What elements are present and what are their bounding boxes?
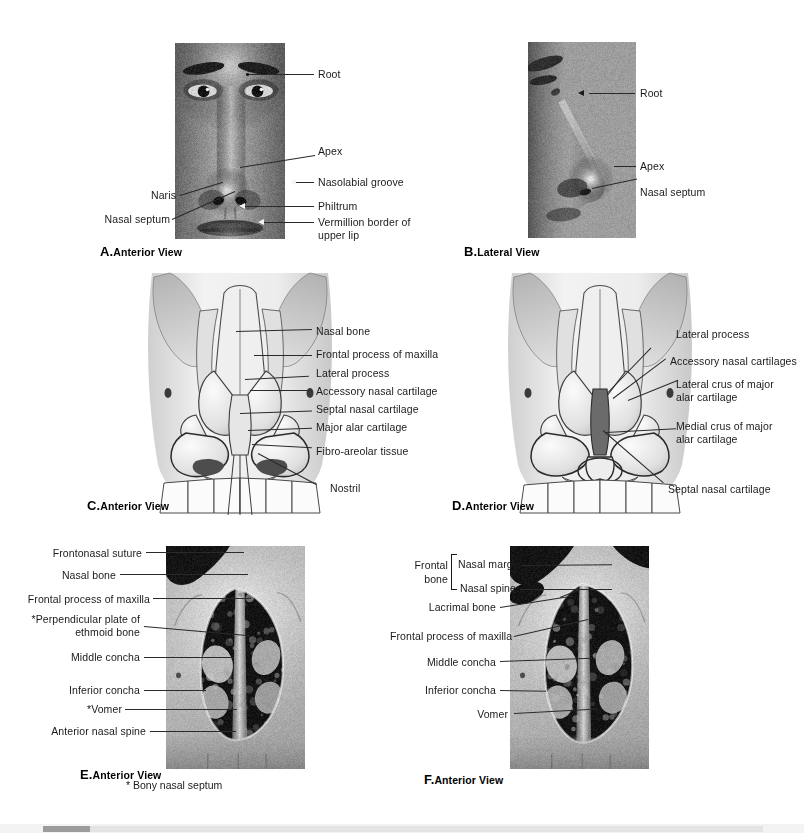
label-e-perpendicular-plate: *Perpendicular plate of ethmoid bone <box>22 613 140 638</box>
label-f-frontal-bone: Frontal bone <box>398 558 448 586</box>
leader-a-vermillion <box>264 222 314 223</box>
panel-d-caption-text: Anterior View <box>465 500 534 512</box>
horizontal-scrollbar[interactable] <box>0 824 804 833</box>
arrow-a-philtrum <box>239 203 245 209</box>
label-c-fibro-areolar-tissue: Fibro-areolar tissue <box>316 445 408 458</box>
leader-e-nasal-bone <box>120 574 248 575</box>
label-f-middle-concha: Middle concha <box>400 656 496 669</box>
leader-a-philtrum <box>245 206 314 207</box>
label-a-vermillion-border: Vermillion border of upper lip <box>318 216 410 241</box>
leader-c-accessory-cartilage <box>250 390 312 391</box>
label-f-nasal-spine: Nasal spine <box>460 582 516 595</box>
label-e-frontal-process-maxilla: Frontal process of maxilla <box>10 593 150 606</box>
label-e-middle-concha: Middle concha <box>44 651 140 664</box>
leader-b-root <box>589 93 635 94</box>
frontal-bone-bracket <box>451 554 457 590</box>
label-d-medial-crus: Medial crus of major alar cartilage <box>676 420 773 445</box>
label-c-nostril: Nostril <box>330 482 360 495</box>
label-e-nasal-bone: Nasal bone <box>30 569 116 582</box>
label-d-accessory-nasal-cartilages: Accessory nasal cartilages <box>670 355 797 368</box>
leader-a-root-dot <box>246 73 249 76</box>
arrow-b-root <box>578 90 584 96</box>
atlas-page: Root Apex Nasolabial groove Philtrum Ver… <box>0 0 804 833</box>
leader-e-anterior-nasal-spine <box>150 731 236 732</box>
panel-f-caption: F.Anterior View <box>412 760 503 799</box>
label-a-nasolabial-groove: Nasolabial groove <box>318 176 404 189</box>
label-a-philtrum: Philtrum <box>318 200 357 213</box>
label-f-nasal-margin: Nasal margin <box>458 558 521 571</box>
leader-a-root <box>248 74 314 75</box>
label-c-nasal-bone: Nasal bone <box>316 325 370 338</box>
label-e-anterior-nasal-spine: Anterior nasal spine <box>32 725 146 738</box>
label-f-lacrimal-bone: Lacrimal bone <box>398 601 496 614</box>
panel-b-letter: B. <box>464 244 477 259</box>
label-a-apex: Apex <box>318 145 342 158</box>
scrollbar-track[interactable] <box>43 826 763 832</box>
leader-c-frontal-process <box>254 355 312 356</box>
label-a-nasal-septum: Nasal septum <box>90 213 170 226</box>
panel-c-caption: C.Anterior View <box>75 486 169 525</box>
leader-e-frontal-process <box>153 598 251 599</box>
label-e-frontonasal-suture: Frontonasal suture <box>30 547 142 560</box>
label-d-lateral-crus: Lateral crus of major alar cartilage <box>676 378 774 403</box>
label-d-lateral-process: Lateral process <box>676 328 749 341</box>
label-a-root: Root <box>318 68 341 81</box>
panel-d-illustration <box>500 265 700 515</box>
panel-d-letter: D. <box>452 498 465 513</box>
label-c-major-alar-cartilage: Major alar cartilage <box>316 421 407 434</box>
label-c-accessory-nasal-cartilage: Accessory nasal cartilage <box>316 385 438 398</box>
leader-a-nasolabial <box>296 182 314 183</box>
leader-e-frontonasal-suture <box>146 552 244 553</box>
leader-e-vomer <box>125 709 237 710</box>
leader-b-apex <box>614 166 636 167</box>
scrollbar-thumb[interactable] <box>43 826 90 832</box>
label-e-inferior-concha: Inferior concha <box>44 684 140 697</box>
leader-f-nasal-spine <box>520 589 612 590</box>
label-a-naris: Naris <box>108 189 176 202</box>
label-c-septal-nasal-cartilage: Septal nasal cartilage <box>316 403 419 416</box>
panel-c-letter: C. <box>87 498 100 513</box>
panel-e-letter: E. <box>80 767 92 782</box>
panel-a-caption-text: Anterior View <box>113 246 182 258</box>
panel-a-letter: A. <box>100 244 113 259</box>
arrow-a-nasolabial <box>290 179 296 185</box>
panel-d-caption: D.Anterior View <box>440 486 534 525</box>
panel-f-caption-text: Anterior View <box>434 774 503 786</box>
arrow-a-vermillion <box>258 219 264 225</box>
label-e-vomer: *Vomer <box>56 703 122 716</box>
label-f-frontal-process-maxilla: Frontal process of maxilla <box>390 630 510 643</box>
panel-c-caption-text: Anterior View <box>100 500 169 512</box>
leader-e-inferior-concha <box>144 690 206 691</box>
label-b-root: Root <box>640 87 663 100</box>
footnote-bony-nasal-septum: * Bony nasal septum <box>126 779 222 791</box>
label-f-vomer: Vomer <box>430 708 508 721</box>
leader-e-middle-concha <box>144 657 234 658</box>
panel-b-caption-text: Lateral View <box>477 246 539 258</box>
label-d-septal-nasal-cartilage: Septal nasal cartilage <box>668 483 771 496</box>
label-f-inferior-concha: Inferior concha <box>400 684 496 697</box>
label-c-frontal-process-maxilla: Frontal process of maxilla <box>316 348 438 361</box>
label-c-lateral-process: Lateral process <box>316 367 389 380</box>
panel-f-letter: F. <box>424 772 434 787</box>
panel-b-photo <box>528 42 636 238</box>
label-b-apex: Apex <box>640 160 664 173</box>
label-b-nasal-septum: Nasal septum <box>640 186 705 199</box>
